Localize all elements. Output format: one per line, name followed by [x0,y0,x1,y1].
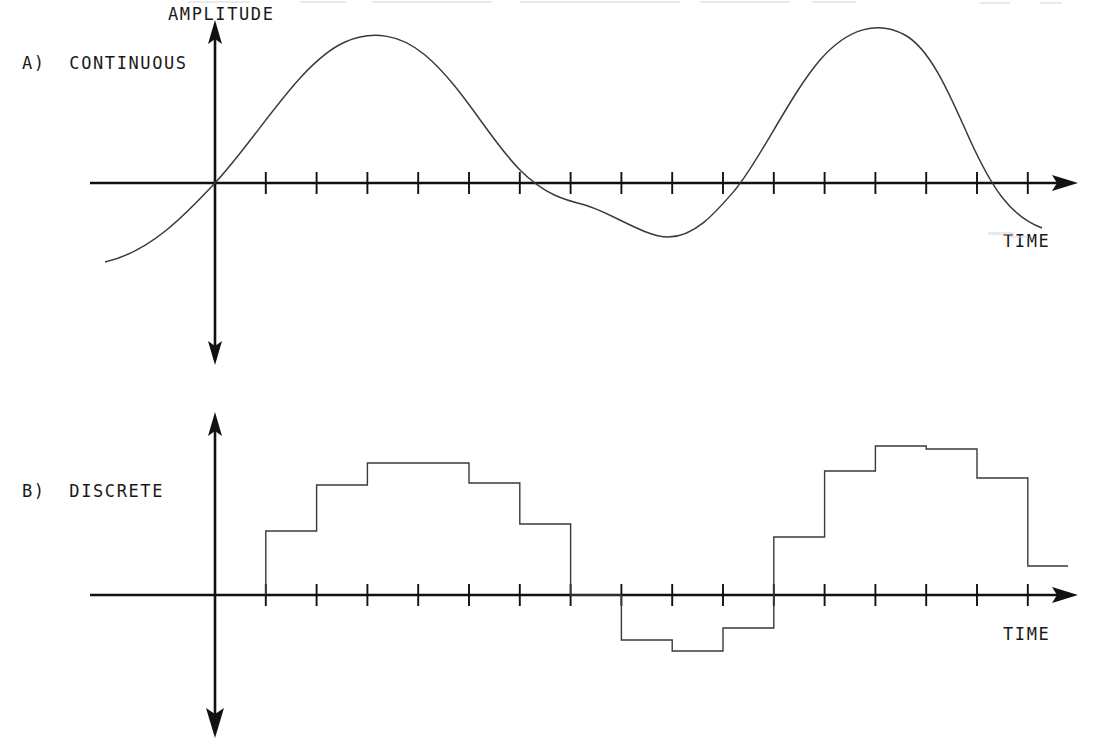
scan-artifact-smudges [188,1,1062,238]
amplitude-axis-bottom [206,412,224,738]
discrete-staircase-waveform [266,446,1068,651]
panel-b-label: B) DISCRETE [22,481,164,501]
amplitude-axis-label: AMPLITUDE [168,4,275,24]
diagram-canvas: AMPLITUDE A) CONTINUOUS B) DISCRETE TIME… [0,0,1101,752]
panel-b-discrete [90,412,1078,738]
time-axis-bottom-label: TIME [1003,624,1050,644]
panel-a-label: A) CONTINUOUS [22,53,188,73]
signal-diagram-figure: AMPLITUDE A) CONTINUOUS B) DISCRETE TIME… [0,0,1101,752]
amplitude-axis-top [208,20,222,365]
panel-a-continuous [90,20,1078,365]
time-axis-top [90,175,1078,191]
continuous-waveform [105,28,1042,262]
